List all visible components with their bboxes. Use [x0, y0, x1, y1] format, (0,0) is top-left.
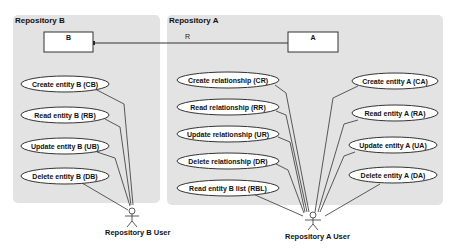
use-case-update-entity-a[interactable]: Update entity A (UA) [349, 137, 437, 153]
entity-box-a[interactable]: A [288, 32, 338, 52]
use-case-delete-entity-b[interactable]: Delete entity B (DB) [21, 168, 109, 184]
svg-text:Update entity A (UA): Update entity A (UA) [359, 142, 427, 150]
entity-box-b[interactable]: B [44, 32, 93, 52]
svg-text:Delete relationship (DR): Delete relationship (DR) [188, 158, 267, 166]
svg-text:Read relationship (RR): Read relationship (RR) [190, 104, 265, 112]
svg-text:Update relationship (UR): Update relationship (UR) [187, 131, 269, 139]
use-case-update-entity-b[interactable]: Update entity B (UB) [21, 138, 109, 154]
entity-a-label: A [310, 34, 315, 41]
svg-text:Read entity B list (RBL): Read entity B list (RBL) [189, 185, 267, 193]
svg-text:Delete entity B (DB): Delete entity B (DB) [32, 173, 97, 181]
use-case-delete-entity-a[interactable]: Delete entity A (DA) [349, 167, 437, 183]
svg-text:Read entity B (RB): Read entity B (RB) [34, 112, 95, 120]
repository-a-title: Repository A [169, 16, 219, 25]
repository-b-title: Repository B [15, 16, 65, 25]
use-case-update-relationship[interactable]: Update relationship (UR) [177, 126, 279, 142]
use-case-diagram: Repository B Repository A R B A Create e… [0, 0, 457, 249]
svg-text:Update entity B (UB): Update entity B (UB) [31, 143, 99, 151]
use-case-read-entity-b-list[interactable]: Read entity B list (RBL) [177, 180, 279, 196]
svg-text:Delete entity A (DA): Delete entity A (DA) [361, 172, 426, 180]
svg-text:Create entity B (CB): Create entity B (CB) [32, 81, 98, 89]
use-case-read-entity-a[interactable]: Read entity A (RA) [352, 105, 438, 121]
svg-text:Create relationship (CR): Create relationship (CR) [188, 77, 268, 85]
use-case-delete-relationship[interactable]: Delete relationship (DR) [177, 153, 279, 169]
actor-a-icon[interactable] [305, 212, 321, 230]
use-case-read-entity-b[interactable]: Read entity B (RB) [21, 107, 109, 123]
association-r-label: R [185, 33, 190, 40]
use-case-create-entity-a[interactable]: Create entity A (CA) [352, 73, 438, 89]
use-case-read-relationship[interactable]: Read relationship (RR) [177, 99, 279, 115]
use-case-create-relationship[interactable]: Create relationship (CR) [177, 72, 279, 88]
entity-b-label: B [66, 34, 71, 41]
svg-text:Create entity A (CA): Create entity A (CA) [362, 78, 428, 86]
actor-b-icon[interactable] [125, 208, 139, 227]
svg-text:Read entity A (RA): Read entity A (RA) [365, 110, 426, 118]
actor-a-label: Repository A User [285, 232, 350, 241]
use-case-create-entity-b[interactable]: Create entity B (CB) [21, 76, 109, 92]
actor-b-label: Repository B User [105, 228, 171, 237]
